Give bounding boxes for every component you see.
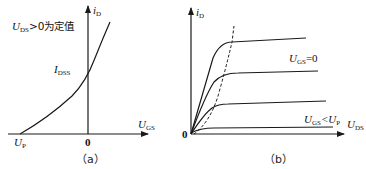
panel-b-curve-label-bottom: UGS<UP [304,113,340,127]
panel-b: iD UGS=0 UGS<UP UDS 0 （b） [182,6,364,166]
panel-a: iD UDS>0为定值 IDSS UGS UP 0 （a） [8,4,155,166]
panel-a-up-label: UP [14,136,26,150]
panel-a-origin-label: 0 [85,136,91,148]
panel-a-transfer-curve [20,22,110,134]
panel-b-y-axis-label: iD [196,6,204,20]
panel-b-curve-label-top: UGS=0 [289,52,318,66]
panel-b-caption: （b） [264,153,293,166]
panel-a-condition-label: UDS>0为定值 [12,20,75,34]
panel-a-y-axis-label: iD [93,4,101,18]
panel-a-idss-label: IDSS [53,63,71,77]
panel-b-curve-2 [191,71,318,134]
panel-b-x-axis-label: UDS [347,118,364,132]
panel-a-caption: （a） [76,153,105,166]
diagram-canvas: iD UDS>0为定值 IDSS UGS UP 0 （a） iD UGS=0 U… [0,0,366,169]
panel-a-x-axis-label: UGS [138,118,155,132]
panel-b-curve-cutoff [191,127,333,133]
panel-b-origin-label: 0 [182,128,188,140]
